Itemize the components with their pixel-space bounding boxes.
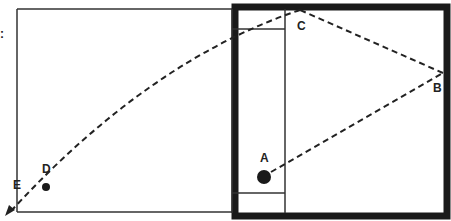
segment-a-b	[271, 73, 443, 172]
segment-b-c	[300, 10, 443, 73]
right-court-border	[235, 7, 447, 216]
trajectory-path	[12, 10, 443, 210]
point-a-dot	[257, 170, 271, 184]
center-strip	[232, 9, 285, 213]
label-b: B	[433, 81, 442, 95]
court-diagram: : A B C D E	[0, 0, 451, 221]
label-a: A	[260, 151, 269, 165]
label-c: C	[297, 19, 306, 33]
point-d-dot	[42, 183, 50, 191]
label-d: D	[42, 162, 51, 176]
segment-c-e	[12, 10, 300, 210]
label-e: E	[13, 178, 21, 192]
edge-glyph: :	[0, 27, 4, 41]
left-court-outline	[17, 9, 232, 212]
arrow-head-icon	[5, 205, 15, 216]
